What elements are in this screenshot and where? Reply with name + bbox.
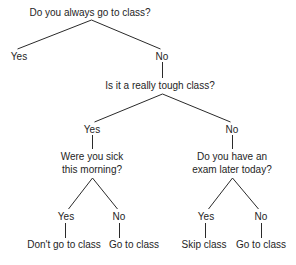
question-text: exam later today? bbox=[192, 164, 272, 177]
question-text: Do you have an bbox=[192, 151, 272, 164]
outcome-text: Don't go to class bbox=[27, 239, 101, 252]
edge-q3-to-q3_yes bbox=[69, 178, 93, 209]
question-text: Is it a really tough class? bbox=[105, 80, 215, 93]
decision-tree-diagram: Do you always go to class?YesNoIs it a r… bbox=[0, 0, 296, 265]
answer-node-q3_no: No bbox=[113, 211, 126, 224]
question-node-q3: Were you sickthis morning? bbox=[61, 151, 124, 176]
answer-text: No bbox=[156, 51, 169, 64]
edge-q4-to-q4_yes bbox=[209, 178, 233, 209]
question-text: Were you sick bbox=[61, 151, 124, 164]
edge-q3-to-q3_no bbox=[93, 178, 118, 209]
answer-node-q3_yes: Yes bbox=[58, 211, 74, 224]
question-node-q4: Do you have anexam later today? bbox=[192, 151, 272, 176]
outcome-node-out3: Skip class bbox=[181, 239, 226, 252]
edge-q2-to-q2_no bbox=[163, 94, 231, 122]
question-node-q1: Do you always go to class? bbox=[29, 7, 150, 20]
outcome-text: Go to class bbox=[236, 239, 286, 252]
answer-node-q2_no: No bbox=[226, 124, 239, 137]
answer-node-q4_yes: Yes bbox=[198, 211, 214, 224]
answer-text: Yes bbox=[84, 124, 100, 137]
outcome-text: Skip class bbox=[181, 239, 226, 252]
outcome-node-out1: Don't go to class bbox=[27, 239, 101, 252]
answer-node-q4_no: No bbox=[255, 211, 268, 224]
answer-text: No bbox=[255, 211, 268, 224]
outcome-node-out2: Go to class bbox=[109, 239, 159, 252]
answer-text: Yes bbox=[58, 211, 74, 224]
edge-q1-to-q1_no bbox=[92, 20, 161, 49]
edge-q2-to-q2_yes bbox=[95, 94, 163, 122]
outcome-text: Go to class bbox=[109, 239, 159, 252]
answer-node-q2_yes: Yes bbox=[84, 124, 100, 137]
tree-edges bbox=[0, 0, 296, 265]
answer-text: No bbox=[226, 124, 239, 137]
answer-text: No bbox=[113, 211, 126, 224]
answer-text: Yes bbox=[11, 51, 27, 64]
answer-text: Yes bbox=[198, 211, 214, 224]
answer-node-q1_no: No bbox=[156, 51, 169, 64]
answer-node-q1_yes: Yes bbox=[11, 51, 27, 64]
question-text: this morning? bbox=[61, 164, 124, 177]
question-text: Do you always go to class? bbox=[29, 7, 150, 20]
edge-q4-to-q4_no bbox=[233, 178, 259, 209]
edge-q1-to-q1_yes bbox=[18, 20, 92, 49]
question-node-q2: Is it a really tough class? bbox=[105, 80, 215, 93]
outcome-node-out4: Go to class bbox=[236, 239, 286, 252]
